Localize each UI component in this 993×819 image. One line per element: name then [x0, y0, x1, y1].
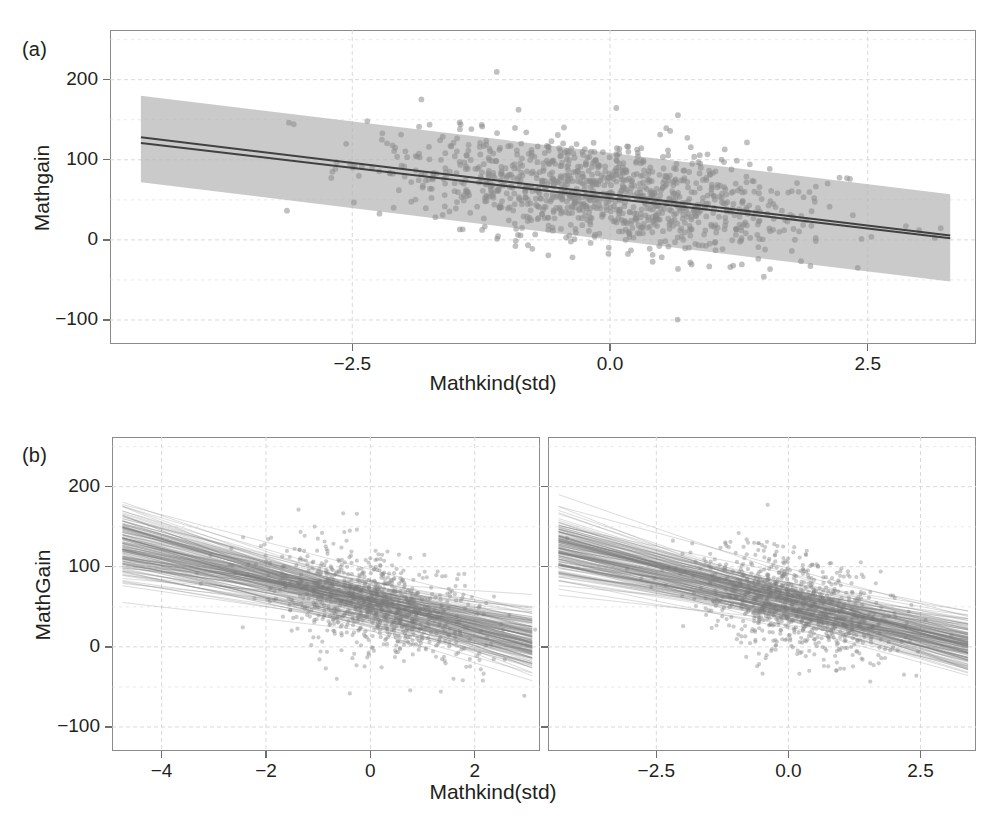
x-tick-mark	[474, 751, 475, 758]
y-tick-mark	[541, 646, 548, 647]
y-tick-mark	[541, 726, 548, 727]
x-tick-mark	[609, 344, 610, 351]
panel-b-x-axis-label: Mathkind(std)	[393, 780, 593, 804]
y-tick-mark	[105, 726, 112, 727]
x-tick-label: −2.5	[302, 353, 402, 375]
x-tick-mark	[265, 751, 266, 758]
y-tick-label: 0	[14, 228, 98, 250]
y-tick-mark	[105, 646, 112, 647]
y-tick-mark	[103, 239, 110, 240]
x-tick-mark	[352, 344, 353, 351]
y-tick-mark	[103, 159, 110, 160]
y-tick-label: 200	[16, 475, 100, 497]
x-tick-mark	[656, 751, 657, 758]
x-tick-label: −2	[216, 760, 316, 782]
x-tick-mark	[161, 751, 162, 758]
x-tick-mark	[370, 751, 371, 758]
x-tick-label: 2.5	[818, 353, 918, 375]
y-tick-mark	[105, 486, 112, 487]
panel-b-canvas	[0, 0, 993, 819]
y-tick-label: 100	[14, 148, 98, 170]
y-tick-label: −100	[16, 715, 100, 737]
y-tick-label: 0	[16, 635, 100, 657]
y-tick-mark	[541, 486, 548, 487]
x-tick-label: 0.0	[738, 760, 838, 782]
y-tick-mark	[105, 566, 112, 567]
x-tick-mark	[867, 344, 868, 351]
x-tick-label: 2	[425, 760, 525, 782]
x-tick-label: −4	[112, 760, 212, 782]
x-tick-mark	[788, 751, 789, 758]
x-tick-mark	[920, 751, 921, 758]
x-tick-label: 0.0	[560, 353, 660, 375]
y-tick-mark	[541, 566, 548, 567]
figure-root: (a) Mathgain Mathkind(std) (b) MathGain …	[0, 0, 993, 819]
y-tick-label: −100	[14, 308, 98, 330]
y-tick-label: 200	[14, 68, 98, 90]
x-tick-label: 2.5	[871, 760, 971, 782]
y-tick-label: 100	[16, 555, 100, 577]
panel-b-letter: (b)	[22, 444, 47, 467]
y-tick-mark	[103, 79, 110, 80]
y-tick-mark	[103, 319, 110, 320]
x-tick-label: −2.5	[606, 760, 706, 782]
x-tick-label: 0	[320, 760, 420, 782]
